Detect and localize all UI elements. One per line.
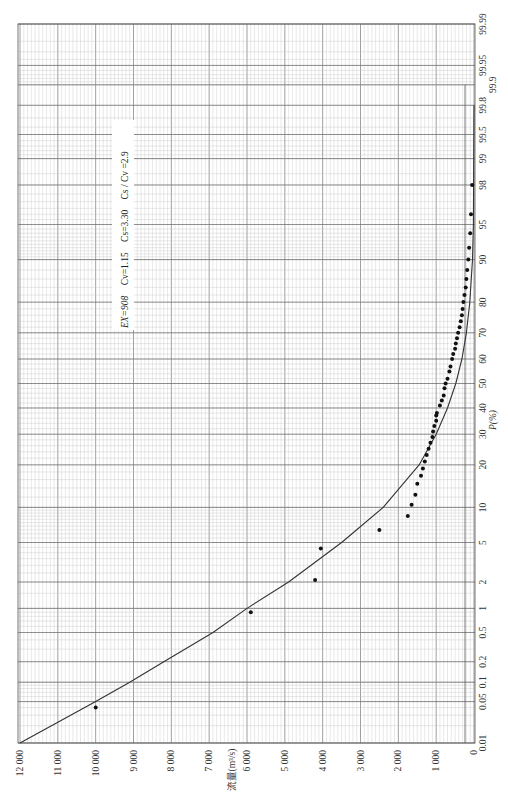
data-point	[450, 357, 454, 361]
data-point	[431, 429, 435, 433]
data-point	[467, 246, 471, 250]
data-point	[459, 319, 463, 323]
discharge-tick-label: 12 000	[15, 750, 25, 776]
p-tick-label: 0.2	[478, 656, 488, 668]
data-point	[440, 399, 444, 403]
data-point	[443, 386, 447, 390]
data-point	[455, 336, 459, 340]
discharge-tick-label: 10 000	[91, 750, 101, 776]
p-tick-label: 70	[478, 328, 488, 338]
data-point	[425, 453, 429, 457]
data-point	[427, 447, 431, 451]
grid	[18, 24, 475, 743]
p-tick-label: 1	[478, 606, 488, 611]
data-point	[423, 460, 427, 464]
data-point	[419, 474, 423, 478]
discharge-tick-label: 6 000	[242, 750, 252, 772]
p-tick-label: 0.5	[478, 626, 488, 638]
discharge-tick-label: 5 000	[280, 750, 290, 772]
discharge-tick-label: 4 000	[318, 750, 328, 772]
p-tick-label: 95	[478, 219, 488, 229]
data-point	[410, 503, 414, 507]
p-tick-label: 0.01	[478, 734, 488, 751]
p-tick-label: 60	[478, 354, 488, 364]
p-tick-label: 40	[478, 403, 488, 413]
p-tick-label: 99.95	[478, 54, 488, 76]
data-point	[438, 404, 442, 408]
data-point	[313, 578, 317, 582]
data-point	[94, 706, 98, 710]
data-point	[432, 424, 436, 428]
data-point	[444, 382, 448, 386]
data-point	[469, 212, 473, 216]
discharge-tick-label: 8 000	[166, 750, 176, 772]
data-point	[464, 277, 468, 281]
data-point	[466, 258, 470, 262]
discharge-tick-label: 1 000	[431, 750, 441, 772]
p-tick-label: 10	[478, 502, 488, 512]
data-point	[453, 347, 457, 351]
probability-tick-labels: 0.010.050.10.20.512510203040506070809095…	[478, 13, 498, 751]
data-point	[468, 231, 472, 235]
data-point	[463, 293, 467, 297]
data-point	[464, 285, 468, 289]
data-point	[460, 313, 464, 317]
data-point	[415, 482, 419, 486]
data-point	[435, 411, 439, 415]
discharge-tick-label: 3 000	[356, 750, 366, 772]
p-tick-label: 99.99	[478, 13, 488, 35]
data-point	[470, 183, 474, 187]
p-tick-label: 99	[478, 154, 488, 164]
data-point	[451, 352, 455, 356]
data-point	[454, 342, 458, 346]
data-point	[413, 493, 417, 497]
p-tick-label: 0.05	[478, 693, 488, 710]
p-tick-label: 99.8	[478, 97, 488, 114]
data-point	[249, 610, 253, 614]
annotation-box: EX=908 Cv=1.15 Cs=3.30 Cs / Cv =2.9	[112, 120, 134, 330]
p-tick-label: 20	[478, 460, 488, 470]
data-point	[421, 466, 425, 470]
data-point	[449, 365, 453, 369]
data-point	[458, 325, 462, 329]
data-point	[430, 435, 434, 439]
p-tick-label: 80	[478, 297, 488, 307]
data-point	[456, 331, 460, 335]
data-point	[406, 514, 410, 518]
data-point	[429, 441, 433, 445]
p-tick-label: 90	[478, 255, 488, 265]
p-tick-label: 99.5	[478, 126, 488, 143]
data-point	[447, 369, 451, 373]
p-tick-label: 98	[478, 180, 488, 190]
data-point	[377, 528, 381, 532]
p-tick-label: 5	[478, 540, 488, 545]
discharge-tick-label: 7 000	[204, 750, 214, 772]
frequency-chart: 01 0002 0003 0004 0005 0006 0007 0008 00…	[0, 0, 508, 792]
p-tick-label: 0.1	[478, 676, 488, 688]
data-point	[461, 307, 465, 311]
discharge-tick-label: 11 000	[53, 750, 63, 776]
p-tick-label: 50	[478, 379, 488, 389]
probability-axis-label: P(%)	[488, 410, 499, 431]
discharge-tick-labels: 01 0002 0003 0004 0005 0006 0007 0008 00…	[15, 750, 479, 776]
data-point	[434, 419, 438, 423]
observed-points	[94, 183, 474, 710]
data-point	[461, 300, 465, 304]
data-point	[442, 394, 446, 398]
p-tick-label: 30	[478, 429, 488, 439]
annotation-text: EX=908 Cv=1.15 Cs=3.30 Cs / Cv =2.9	[120, 151, 130, 329]
p-tick-label: 99.9	[488, 76, 498, 93]
data-point	[319, 546, 323, 550]
discharge-tick-label: 9 000	[129, 750, 139, 772]
discharge-tick-label: 2 000	[393, 750, 403, 772]
discharge-axis-label: 流量(m³/s)	[226, 749, 238, 792]
p-tick-label: 2	[478, 579, 488, 584]
data-point	[465, 268, 469, 272]
data-point	[446, 377, 450, 381]
